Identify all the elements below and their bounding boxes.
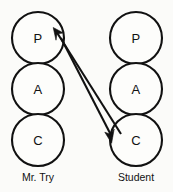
diagram-canvas: P A C P A C Mr. Try Student [0, 0, 173, 192]
label-left-parent: P [34, 31, 43, 46]
label-right-child: C [131, 133, 141, 148]
label-right-parent: P [132, 31, 141, 46]
transaction-line-response[interactable] [61, 38, 112, 137]
label-right-adult: A [132, 82, 141, 97]
column-right-student: P A C [110, 12, 162, 166]
column-label-student: Student [118, 171, 154, 183]
label-left-child: C [33, 133, 43, 148]
column-label-mr-try: Mr. Try [22, 171, 55, 183]
pac-transaction-diagram: P A C P A C Mr. Try Student [0, 0, 173, 192]
label-left-adult: A [34, 82, 43, 97]
